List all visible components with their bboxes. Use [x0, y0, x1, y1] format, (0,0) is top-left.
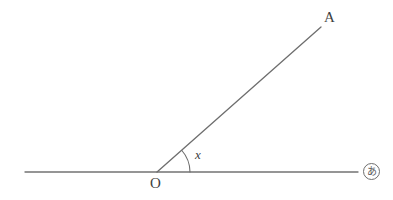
vertex-label-o: O: [150, 176, 161, 191]
circled-hiragana-a-marker: あ: [363, 163, 380, 180]
figure-canvas: [0, 0, 393, 200]
point-label-a: A: [324, 10, 335, 25]
angle-label-x: x: [195, 148, 201, 161]
geometry-figure: A O x あ: [0, 0, 393, 200]
angle-arc: [182, 151, 190, 173]
